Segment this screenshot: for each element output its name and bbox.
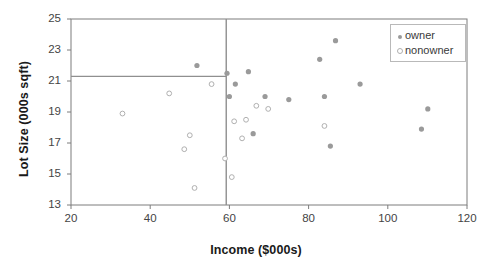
- data-point-nonowner: [223, 156, 228, 161]
- y-tick-label: 19: [35, 105, 61, 117]
- x-tick-label: 40: [135, 212, 165, 224]
- x-tick-label: 80: [294, 212, 324, 224]
- legend-item-nonowner: nonowner: [395, 44, 453, 56]
- data-point-nonowner: [167, 91, 172, 96]
- y-tick-label: 15: [35, 167, 61, 179]
- data-point-nonowner: [240, 136, 245, 141]
- data-point-owner: [262, 94, 267, 99]
- data-point-owner: [328, 144, 333, 149]
- data-point-owner: [322, 94, 327, 99]
- data-point-owner: [251, 131, 256, 136]
- x-tick-label: 100: [373, 212, 403, 224]
- data-point-nonowner: [182, 147, 187, 152]
- y-tick-label: 25: [35, 12, 61, 24]
- data-point-owner: [286, 97, 291, 102]
- legend-item-owner: owner: [395, 29, 435, 41]
- data-point-owner: [224, 71, 229, 76]
- data-point-owner: [425, 106, 430, 111]
- filled-circle-icon: [395, 29, 405, 41]
- legend: owner nonowner: [390, 24, 466, 62]
- y-tick-label: 13: [35, 198, 61, 210]
- data-point-owner: [246, 69, 251, 74]
- data-point-owner: [419, 126, 424, 131]
- data-point-owner: [233, 82, 238, 87]
- x-tick-label: 60: [214, 212, 244, 224]
- data-point-owner: [333, 38, 338, 43]
- x-tick-label: 20: [56, 212, 86, 224]
- data-point-nonowner: [229, 175, 234, 180]
- legend-label-owner: owner: [405, 29, 435, 41]
- data-point-owner: [317, 57, 322, 62]
- y-tick-label: 17: [35, 136, 61, 148]
- data-point-nonowner: [232, 119, 237, 124]
- data-point-owner: [194, 63, 199, 68]
- data-point-nonowner: [120, 111, 125, 116]
- data-point-owner: [227, 94, 232, 99]
- data-point-nonowner: [192, 186, 197, 191]
- data-point-nonowner: [322, 124, 327, 129]
- legend-label-nonowner: nonowner: [405, 44, 453, 56]
- y-tick-label: 23: [35, 43, 61, 55]
- x-tick-label: 120: [452, 212, 482, 224]
- data-point-owner: [357, 82, 362, 87]
- data-point-nonowner: [187, 133, 192, 138]
- open-circle-icon: [395, 44, 405, 56]
- data-point-nonowner: [254, 103, 259, 108]
- data-point-nonowner: [244, 117, 249, 122]
- scatter-plot: Lot Size (000s sqft) Income ($000s) 1315…: [0, 0, 492, 268]
- data-point-nonowner: [209, 82, 214, 87]
- data-point-nonowner: [266, 107, 271, 112]
- y-tick-label: 21: [35, 74, 61, 86]
